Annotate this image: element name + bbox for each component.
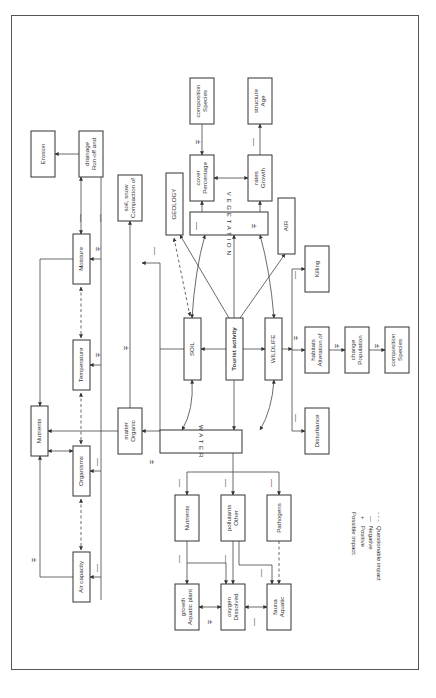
node-label: Dissolved [232,593,239,620]
impact-sign: ± [148,460,157,465]
tourist-impact-diagram: Tourist activitySOILWILDLIFEW A T E RV E… [0,0,436,698]
node-aquatic-fauna: Aquaticfauna [267,584,291,630]
node-label: Nutrients [35,419,42,444]
impact-sign: ± [94,353,103,358]
node-species-comp-right: Speciescomposition [385,327,409,373]
legend-symbol-negative: — [368,516,374,522]
node-label: Alteration of [316,333,323,366]
node-label: GEOLOGY [170,189,177,220]
impact-sign: ± [292,336,301,341]
node-species-comp-top: Speciescomposition [190,78,214,124]
impact-sign: — [94,564,103,572]
impact-sign: — [193,222,202,230]
impact-sign: — [258,569,267,577]
impact-sign: — [222,555,231,563]
impact-sign: — [176,479,185,487]
node-label: fauna [271,599,278,615]
impact-sign: — [97,214,106,222]
node-compaction: Compaction ofsoil, snow [118,175,142,221]
node-label: soil, snow [122,184,129,212]
node-label: Air capacity [77,560,84,593]
node-organisms: Organisms [73,446,90,496]
node-geology: GEOLOGY [166,173,183,235]
node-pathogens: Pathogens [267,495,291,541]
node-label: drainage [83,141,90,166]
node-label: Growth [259,167,266,188]
node-label: Percentage [201,162,208,194]
node-label: Run-off and [90,137,97,170]
node-aquatic-plant: Aquatic plantgrowth [175,584,199,630]
impact-sign: — [292,271,301,279]
node-label: Population [356,335,363,365]
node-label: composition [194,84,201,118]
node-label: Nutrients [183,506,190,531]
node-label: Compaction of [129,178,136,218]
node-label: cover [194,170,201,185]
impact-sign: ± [122,346,131,351]
node-tourist: Tourist activity [226,318,243,380]
node-label: Organic [129,420,136,442]
node-age-structure: Agestructure [248,78,272,124]
node-air-capacity: Air capacity [73,552,90,602]
node-moisture: Moisture [73,234,90,284]
impact-sign: ± [373,344,382,349]
node-label: SOIL [188,341,195,356]
node-alteration: Alteration ofhabitats [305,327,329,373]
figure-caption-faint [424,470,432,690]
node-wildlife: WILDLIFE [265,318,282,380]
node-growth-rates: Growthrates [248,155,272,201]
impact-sign: — [94,458,103,466]
node-dissolved-oxygen: Dissolvedoxygen [221,584,245,630]
legend-symbol-questionable: - - - [376,512,382,521]
impact-sign: — [251,618,260,626]
node-label: Pathogens [275,503,282,533]
impact-sign: ± [194,140,203,145]
node-label: Species [201,90,208,112]
impact-sign: — [292,414,301,422]
impact-sign: — [250,138,259,146]
legend-label-positive: Positive [360,526,366,548]
node-nutrients-water: Nutrients [175,495,199,541]
node-label: WILDLIFE [269,335,276,364]
node-population-change: Populationchange [345,327,369,373]
node-label: habitats [309,339,316,361]
node-disturbance: Disturbance [305,408,329,454]
node-label: change [349,339,356,360]
node-label: W A T E R [198,425,205,458]
node-air: AIR [278,198,295,254]
node-label: pollutants [225,505,232,532]
impact-sign: ± [206,620,215,625]
node-label: growth [179,597,186,616]
node-label: Erosion [39,143,46,165]
node-label: Other [232,510,239,525]
node-label: oxygen [225,596,232,617]
node-erosion: Erosion [31,131,55,177]
node-temperature: Temperature [73,340,90,390]
impact-sign: ± [250,224,259,229]
node-label: Age [259,95,266,107]
impact-sign: ± [30,558,39,563]
node-label: rates [252,171,259,185]
node-percent-cover: Percentagecover [190,155,214,201]
impact-sign: — [176,555,185,563]
node-killing: Killing [305,246,329,292]
legend-label-questionable: Questionable impact [376,526,382,581]
node-label: Moisture [77,247,84,271]
legend-title: Possible impact: [351,512,357,556]
node-label: AIR [282,220,289,231]
impact-sign: ± [94,247,103,252]
node-label: Temperature [77,347,84,382]
node-label: Organisms [77,456,84,486]
impact-sign: — [77,214,86,222]
node-label: Killing [313,260,320,277]
node-runoff: Run-off anddrainage [79,131,103,177]
node-label: Disturbance [313,414,320,448]
node-label: Aquatic plant [186,589,193,625]
node-label: V E G E T A T I O N [226,192,233,256]
node-organic-matter: Organicmatter [118,408,142,454]
impact-sign: ± [333,344,342,349]
impact-sign: — [222,479,231,487]
node-label: Aquatic [278,597,285,618]
node-label: matter [122,422,129,440]
node-water: W A T E R [160,425,242,458]
